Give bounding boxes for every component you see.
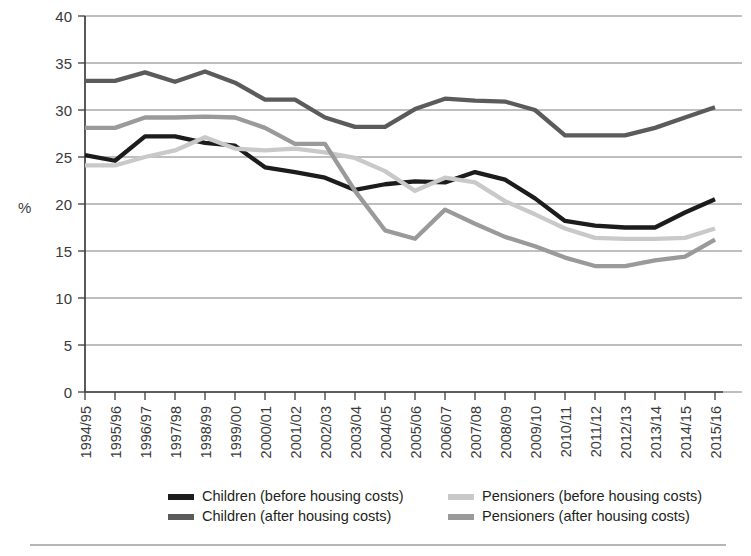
legend-label: Children (after housing costs) — [202, 508, 391, 524]
x-tick-label: 2015/16 — [708, 406, 724, 458]
legend-swatch — [448, 494, 474, 500]
legend-label: Pensioners (before housing costs) — [482, 488, 702, 504]
gridlines-group — [85, 16, 742, 392]
x-tick-label: 2010/11 — [558, 406, 574, 457]
y-tick-label: 20 — [55, 196, 72, 213]
x-tick-label: 2005/06 — [408, 406, 424, 458]
legend-item: Children (before housing costs) — [168, 488, 404, 504]
x-tick-label: 2009/10 — [528, 406, 544, 458]
legend-item: Pensioners (before housing costs) — [448, 488, 702, 504]
x-tick-label: 2004/05 — [378, 406, 394, 458]
legend-item: Children (after housing costs) — [168, 508, 391, 524]
x-tick-label: 2006/07 — [438, 406, 454, 458]
series-lines-group — [85, 71, 715, 266]
y-tick-label: 10 — [55, 290, 72, 307]
x-tick-label: 1995/96 — [108, 406, 124, 458]
legend-label: Pensioners (after housing costs) — [482, 508, 690, 524]
x-tick-label: 2014/15 — [678, 406, 694, 458]
x-tick-label: 1994/95 — [78, 406, 94, 458]
x-tick-label: 1998/99 — [198, 406, 214, 458]
legend-item: Pensioners (after housing costs) — [448, 508, 690, 524]
x-tick-label: 2001/02 — [288, 406, 304, 458]
y-tick-label: 0 — [64, 384, 72, 401]
y-tick-label: 40 — [55, 8, 72, 25]
x-tick-label: 2011/12 — [588, 406, 604, 457]
y-tick-label: 25 — [55, 149, 72, 166]
series-line — [85, 71, 715, 135]
y-axis-tick-labels: 0510152025303540 — [55, 8, 72, 401]
x-tick-label: 2008/09 — [498, 406, 514, 458]
y-tick-label: 5 — [64, 337, 72, 354]
y-tick-label: 30 — [55, 102, 72, 119]
x-tick-label: 1997/98 — [168, 406, 184, 458]
x-tick-label: 2007/08 — [468, 406, 484, 458]
chart-legend: Children (before housing costs)Children … — [168, 488, 702, 524]
series-line — [85, 137, 715, 239]
x-tick-label: 1996/97 — [138, 406, 154, 458]
legend-label: Children (before housing costs) — [202, 488, 404, 504]
poverty-rate-line-chart: 0510152025303540 1994/951995/961996/9719… — [0, 0, 751, 556]
y-axis — [78, 16, 85, 392]
x-tick-label: 2002/03 — [318, 406, 334, 458]
legend-swatch — [448, 514, 474, 520]
y-axis-title: % — [18, 199, 31, 216]
chart-canvas: 0510152025303540 1994/951995/961996/9719… — [0, 0, 751, 556]
x-tick-label: 2000/01 — [258, 406, 274, 458]
y-tick-label: 15 — [55, 243, 72, 260]
x-tick-label: 2003/04 — [348, 406, 364, 458]
y-tick-label: 35 — [55, 55, 72, 72]
x-tick-label: 2013/14 — [648, 406, 664, 458]
x-tick-label: 2012/13 — [618, 406, 634, 458]
x-axis-tick-labels: 1994/951995/961996/971997/981998/991999/… — [78, 406, 724, 458]
legend-swatch — [168, 514, 194, 520]
x-axis — [85, 392, 723, 400]
x-tick-label: 1999/00 — [228, 406, 244, 458]
legend-swatch — [168, 494, 194, 500]
